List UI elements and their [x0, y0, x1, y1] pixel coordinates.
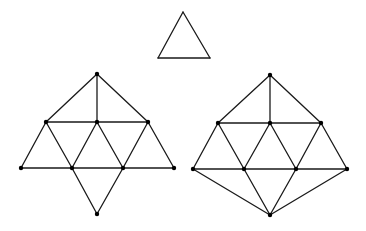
vertex-dot: [242, 167, 246, 171]
edge: [46, 74, 97, 122]
edge: [218, 75, 270, 123]
edge: [321, 123, 347, 169]
diagram-canvas: [0, 0, 366, 231]
vertex-dot: [345, 167, 349, 171]
vertex-dot: [216, 121, 220, 125]
edge: [158, 12, 183, 58]
edge: [21, 122, 46, 168]
edge: [46, 122, 72, 168]
edge: [193, 123, 218, 169]
edge: [72, 122, 97, 168]
vertex-dot: [70, 166, 74, 170]
vertex-dot: [268, 73, 272, 77]
vertex-dot: [268, 121, 272, 125]
vertex-dot: [191, 167, 195, 171]
edge: [148, 122, 174, 168]
vertex-dot: [319, 121, 323, 125]
edge: [97, 74, 148, 122]
edge: [270, 169, 347, 215]
vertex-dot: [44, 120, 48, 124]
vertex-dot: [95, 120, 99, 124]
vertex-dot: [172, 166, 176, 170]
vertex-dot: [95, 212, 99, 216]
right-graph-figure: [191, 73, 349, 217]
vertex-dot: [268, 213, 272, 217]
edge: [244, 123, 270, 169]
edge: [183, 12, 210, 58]
vertex-dot: [19, 166, 23, 170]
vertex-dot: [95, 72, 99, 76]
vertex-dot: [294, 167, 298, 171]
edge: [97, 168, 123, 214]
vertex-dot: [121, 166, 125, 170]
edge: [270, 123, 296, 169]
edge: [296, 123, 321, 169]
edge: [218, 123, 244, 169]
edge: [270, 75, 321, 123]
edge: [123, 122, 148, 168]
edge: [270, 169, 296, 215]
vertex-dot: [146, 120, 150, 124]
left-graph-figure: [19, 72, 176, 216]
triangle-figure: [158, 12, 210, 58]
edge: [97, 122, 123, 168]
edge: [244, 169, 270, 215]
edge: [72, 168, 97, 214]
edge: [193, 169, 270, 215]
